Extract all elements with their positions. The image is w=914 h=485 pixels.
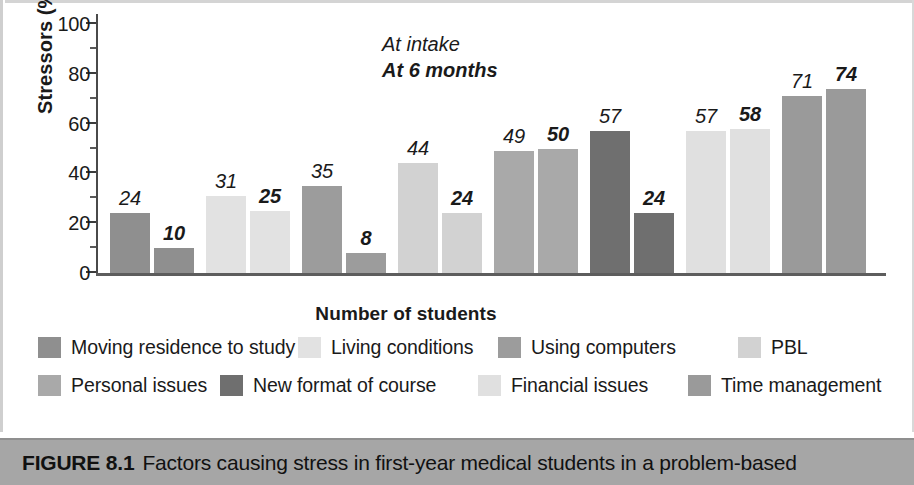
legend-item-4[interactable]: PBL (738, 336, 808, 359)
bar-value-label: 71 (791, 70, 813, 93)
chart-legend: Moving residence to studyLiving conditio… (38, 330, 898, 408)
legend-swatch-icon (298, 337, 321, 358)
legend-label: Using computers (531, 336, 676, 359)
legend-swatch-icon (220, 375, 243, 396)
bar-8-at-6-months: 74 (826, 89, 866, 273)
y-tick-label-20: 20 (68, 212, 90, 235)
bar-1-at-6-months: 10 (154, 248, 194, 273)
bar-value-label: 24 (119, 187, 141, 210)
legend-label: Personal issues (71, 374, 207, 397)
legend-row-2: Personal issuesNew format of courseFinan… (38, 370, 898, 400)
bar-value-label: 25 (259, 185, 281, 208)
x-axis-line (96, 273, 886, 276)
bar-value-label: 50 (547, 123, 569, 146)
bar-7-at-6-months: 58 (730, 129, 770, 273)
legend-label: Living conditions (331, 336, 473, 359)
legend-swatch-icon (38, 337, 61, 358)
y-tick-70 (90, 97, 96, 99)
legend-swatch-icon (38, 375, 61, 396)
y-axis-title: Stressors (%) (34, 0, 57, 114)
bar-6-at-intake: 57 (590, 131, 630, 273)
bar-value-label: 49 (503, 125, 525, 148)
annotation-at-intake: At intake (382, 32, 498, 58)
y-tick-label-60: 60 (68, 112, 90, 135)
bar-6-at-6-months: 24 (634, 213, 674, 273)
bar-4-at-intake: 44 (398, 163, 438, 273)
bar-value-label: 10 (163, 222, 185, 245)
y-tick-label-80: 80 (68, 62, 90, 85)
bar-value-label: 24 (451, 187, 473, 210)
legend-item-7[interactable]: Financial issues (478, 374, 648, 397)
y-axis-line (96, 14, 98, 276)
bar-5-at-6-months: 50 (538, 149, 578, 274)
page-edge-top (0, 0, 914, 3)
legend-item-5[interactable]: Personal issues (38, 374, 207, 397)
bar-value-label: 8 (361, 227, 372, 250)
y-tick-50 (90, 147, 96, 149)
bar-3-at-intake: 35 (302, 186, 342, 273)
y-tick-label-0: 0 (79, 262, 90, 285)
bar-7-at-intake: 57 (686, 131, 726, 273)
y-tick-90 (90, 47, 96, 49)
series-annotations: At intake At 6 months (382, 32, 498, 83)
figure-caption-band: FIGURE 8.1Factors causing stress in firs… (0, 438, 914, 485)
legend-label: New format of course (253, 374, 436, 397)
bar-2-at-intake: 31 (206, 196, 246, 273)
y-tick-label-40: 40 (68, 162, 90, 185)
page-edge-left-inner (3, 0, 5, 432)
x-axis-title: Number of students (96, 303, 716, 325)
legend-label: PBL (771, 336, 808, 359)
legend-label: Financial issues (511, 374, 648, 397)
legend-item-2[interactable]: Living conditions (298, 336, 473, 359)
legend-swatch-icon (498, 337, 521, 358)
y-tick-label-100: 100 (58, 13, 90, 36)
legend-swatch-icon (688, 375, 711, 396)
bar-value-label: 57 (695, 105, 717, 128)
bar-value-label: 74 (835, 63, 857, 86)
bar-5-at-intake: 49 (494, 151, 534, 273)
bar-value-label: 58 (739, 103, 761, 126)
legend-item-6[interactable]: New format of course (220, 374, 436, 397)
legend-row-1: Moving residence to studyLiving conditio… (38, 332, 898, 362)
legend-swatch-icon (478, 375, 501, 396)
bar-value-label: 57 (599, 105, 621, 128)
bar-1-at-intake: 24 (110, 213, 150, 273)
legend-label: Moving residence to study (71, 336, 295, 359)
bar-4-at-6-months: 24 (442, 213, 482, 273)
figure-number: FIGURE 8.1 (22, 451, 134, 474)
bar-3-at-6-months: 8 (346, 253, 386, 273)
bar-value-label: 35 (311, 160, 333, 183)
bar-8-at-intake: 71 (782, 96, 822, 273)
figure-caption-text: Factors causing stress in first-year med… (142, 451, 796, 474)
annotation-at-6-months: At 6 months (382, 58, 498, 84)
bar-value-label: 44 (407, 137, 429, 160)
figure-caption: FIGURE 8.1Factors causing stress in firs… (22, 451, 797, 475)
legend-item-1[interactable]: Moving residence to study (38, 336, 295, 359)
y-tick-10 (90, 246, 96, 248)
legend-item-8[interactable]: Time management (688, 374, 881, 397)
legend-label: Time management (721, 374, 881, 397)
y-tick-30 (90, 196, 96, 198)
bar-chart: Stressors (%) 020406080100 2410312535844… (96, 14, 886, 286)
bar-2-at-6-months: 25 (250, 211, 290, 273)
figure-8-1: Stressors (%) 020406080100 2410312535844… (0, 0, 914, 485)
legend-swatch-icon (738, 337, 761, 358)
bar-value-label: 31 (215, 170, 237, 193)
legend-item-3[interactable]: Using computers (498, 336, 676, 359)
bar-value-label: 24 (643, 187, 665, 210)
